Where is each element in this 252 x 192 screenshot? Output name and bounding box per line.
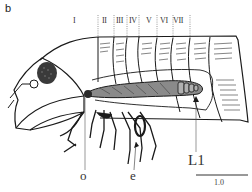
antenna-socket [30,80,38,88]
compound-eye [37,62,57,84]
segment-hatching [100,43,240,110]
neck-joint [84,90,92,98]
scale-bar-label: 1.0 [214,178,224,187]
antenna [10,84,30,98]
insect-anatomy-drawing [0,0,252,192]
callout-label-e: e [130,168,136,184]
callout-label-o: o [80,168,87,184]
segment-boundaries [98,15,190,38]
arrow-e [134,142,139,148]
callout-label-l1: L1 [188,152,205,169]
